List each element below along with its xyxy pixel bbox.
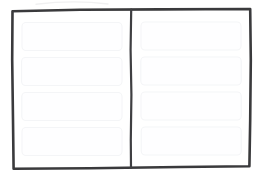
placeholder-block[interactable] (141, 22, 241, 50)
placeholder-block[interactable] (141, 57, 241, 85)
placeholder-block[interactable] (141, 92, 241, 120)
right-column (141, 22, 241, 155)
column-divider (131, 10, 132, 168)
placeholder-block[interactable] (22, 128, 122, 156)
wireframe-canvas: Two Column Wireframe Sketch Hand-drawn l… (0, 0, 263, 178)
left-column (22, 23, 122, 156)
placeholder-block[interactable] (22, 93, 122, 121)
placeholder-block[interactable] (22, 58, 122, 86)
paper-smudge-layer (36, 2, 108, 4)
wireframe-sketch (0, 0, 263, 178)
paper-smudge-top (36, 2, 108, 4)
placeholder-block[interactable] (141, 127, 241, 155)
placeholder-block[interactable] (22, 23, 122, 51)
